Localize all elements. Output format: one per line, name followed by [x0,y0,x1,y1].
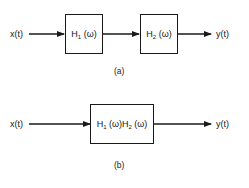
output-label-b: y(t) [216,119,229,129]
caption-b: (b) [114,160,124,170]
output-label-a: y(t) [216,29,229,39]
connection-arrows [0,0,249,188]
caption-a: (a) [114,66,124,76]
block-h1h2-label: H1 (ω)H2 (ω) [97,119,148,130]
block-h2-label: H2 (ω) [146,29,171,40]
block-h1h2: H1 (ω)H2 (ω) [90,104,154,144]
block-h1-label: H1 (ω) [71,29,96,40]
block-h2: H2 (ω) [140,14,178,54]
block-h1: H1 (ω) [65,14,103,54]
input-label-a: x(t) [10,29,23,39]
input-label-b: x(t) [10,119,23,129]
